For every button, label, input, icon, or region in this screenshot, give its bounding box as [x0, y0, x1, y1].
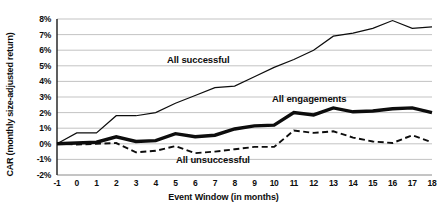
x-axis-tick-label: 6: [193, 178, 197, 188]
y-axis-tick-label: -1%: [37, 154, 51, 164]
series-line-all-engagements: [57, 108, 432, 144]
y-axis-tick-label: 0%: [39, 139, 51, 149]
x-axis-tick-label: 5: [173, 178, 177, 188]
x-axis-tick-label: 2: [114, 178, 118, 188]
x-axis-tick-label: 15: [368, 178, 377, 188]
series-label-all-engagements: All engagements: [272, 93, 347, 104]
y-axis-tick-label: 5%: [39, 61, 51, 71]
plot-svg: [57, 19, 432, 175]
y-axis-tick-label: 6%: [39, 45, 51, 55]
series-lines: [57, 21, 432, 154]
series-line-all-unsuccessful: [57, 131, 432, 154]
x-axis-tick-label: 17: [408, 178, 417, 188]
x-axis-tick-label: 0: [75, 178, 79, 188]
x-axis-tick-label: 10: [270, 178, 279, 188]
x-axis-tick-label: 16: [388, 178, 397, 188]
series-line-all-successful: [57, 21, 432, 144]
x-axis-tick-label: 14: [349, 178, 358, 188]
chart-container: CAR (monthly size-adjusted return) 8%7%6…: [0, 0, 447, 209]
x-axis-tick-label: 8: [232, 178, 236, 188]
y-axis-tick-label: 2%: [39, 108, 51, 118]
y-axis-tick-label: 8%: [39, 14, 51, 24]
x-axis-tick-label: 3: [134, 178, 138, 188]
x-axis-tick-label: 11: [290, 178, 298, 188]
y-axis-tick-label: 4%: [39, 76, 51, 86]
x-axis-tick-label: 1: [94, 178, 98, 188]
y-axis-tick-label: 3%: [39, 92, 51, 102]
x-axis-tick-label: -1: [54, 178, 61, 188]
x-axis-tick-label: 13: [329, 178, 338, 188]
y-axis-tick-label: 1%: [39, 123, 51, 133]
x-axis-title: Event Window (in months): [0, 192, 447, 202]
x-axis-tick-labels: -10123456789101112131415161718: [0, 178, 447, 192]
y-axis-tick-label: 7%: [39, 30, 51, 40]
series-label-all-successful: All successful: [167, 54, 230, 65]
series-label-all-unsuccessful: All unsuccessful: [176, 154, 250, 165]
x-axis-tick-label: 7: [213, 178, 217, 188]
gridlines: [57, 19, 432, 175]
plot-area: [57, 19, 432, 175]
x-axis-tick-label: 4: [153, 178, 157, 188]
x-axis-tick-label: 18: [428, 178, 437, 188]
x-axis-tick-label: 9: [252, 178, 256, 188]
x-axis-tick-label: 12: [309, 178, 318, 188]
